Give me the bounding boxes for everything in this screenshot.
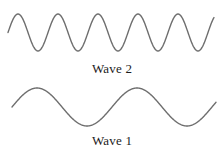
wave-comparison-figure: Wave 2 Wave 1 — [0, 0, 224, 157]
wave-1-label: Wave 1 — [0, 133, 224, 148]
wave-2-label: Wave 2 — [0, 61, 224, 76]
